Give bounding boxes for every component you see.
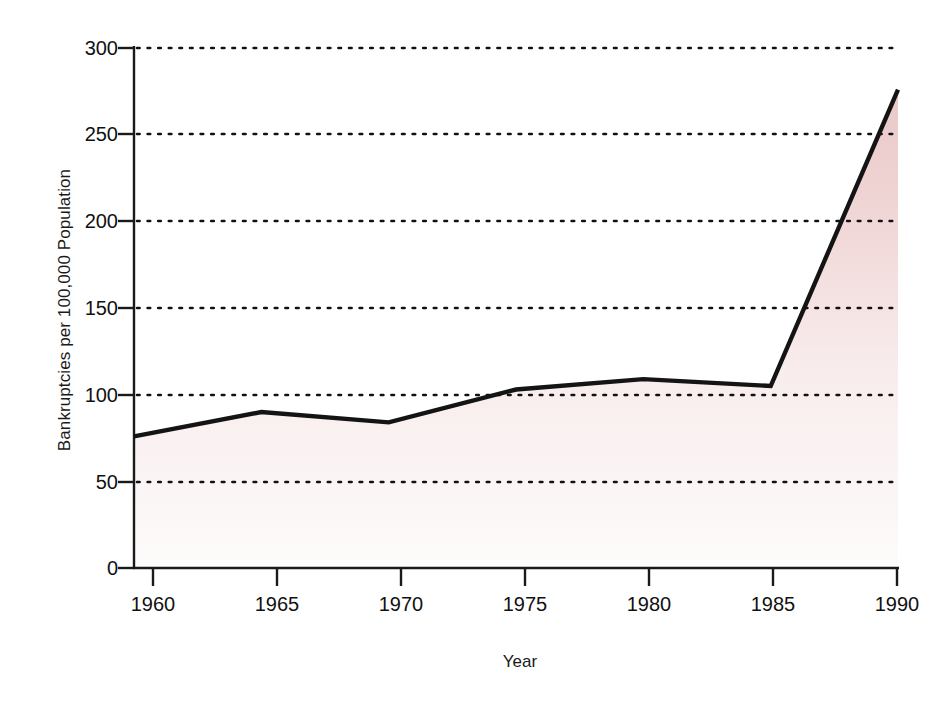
chart-figure: 300 250 200 150 100 50 0 1960 1965 1970 … <box>0 0 949 701</box>
x-axis-title: Year <box>460 652 580 672</box>
y-axis-title: Bankruptcies per 100,000 Population <box>55 100 75 520</box>
x-tick-label-1980: 1980 <box>604 594 694 614</box>
x-tick-label-1970: 1970 <box>356 594 446 614</box>
x-tick-label-1990: 1990 <box>852 594 942 614</box>
x-tick-label-1975: 1975 <box>480 594 570 614</box>
x-tick-label-1965: 1965 <box>232 594 322 614</box>
x-tick-labels: 1960 1965 1970 1975 1980 1985 1990 <box>0 0 949 701</box>
x-tick-label-1985: 1985 <box>728 594 818 614</box>
x-tick-label-1960: 1960 <box>108 594 198 614</box>
